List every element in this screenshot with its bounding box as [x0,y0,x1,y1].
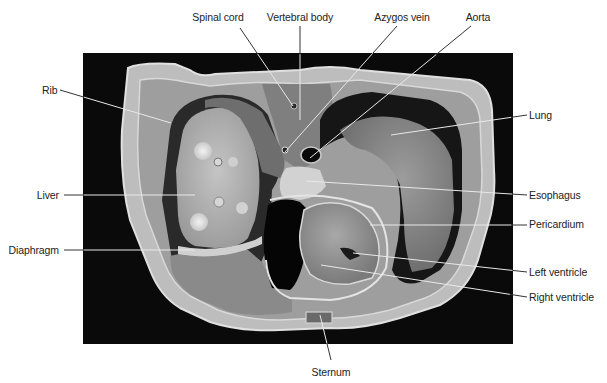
leader-line [327,344,331,361]
aorta [301,147,321,163]
label-azygos-vein: Azygos vein [374,11,430,23]
leader-line [512,194,527,195]
label-left-ventricle: Left ventricle [529,266,587,278]
leader-line [511,115,527,117]
leader-line [513,270,528,272]
leader-line [436,26,471,55]
label-esophagus: Esophagus [529,189,581,201]
label-aorta: Aorta [466,11,491,23]
label-pericardium: Pericardium [529,218,584,230]
label-right-ventricle: Right ventricle [529,291,594,303]
label-diaphragm: Diaphragm [9,244,59,256]
liver-lesion [214,197,224,207]
label-lung: Lung [529,109,552,121]
thorax-cross-section-figure [0,0,607,383]
label-vertebral-body: Vertebral body [267,11,333,23]
liver-lesion [190,213,208,231]
liver-lesion [236,202,248,214]
leader-line [60,90,84,97]
liver-lesion [228,157,238,167]
label-sternum: Sternum [312,366,351,378]
label-liver: Liver [37,189,59,201]
label-rib: Rib [42,84,57,96]
leader-line [373,26,397,53]
leader-line [240,28,258,54]
liver-lesion [194,142,212,160]
liver-lesion [214,158,222,166]
label-spinal-cord: Spinal cord [192,11,243,23]
sternum-bone [306,312,332,323]
